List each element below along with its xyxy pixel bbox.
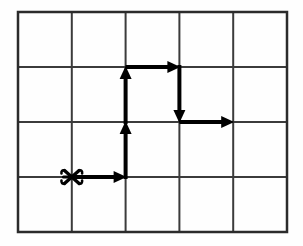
grid-path-canvas: [0, 0, 303, 246]
start-marker-hub: [70, 175, 74, 179]
grid-path-diagram: [0, 0, 303, 246]
